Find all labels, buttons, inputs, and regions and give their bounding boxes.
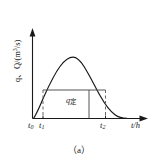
- tick-t1-subscript: 1: [41, 124, 44, 130]
- tick-t0-subscript: 0: [30, 124, 33, 130]
- area-annotation-subscript: 定: [70, 98, 77, 105]
- y-axis-units-tail: /s): [12, 40, 22, 49]
- figure-container: q、Q/(m3/s) t/h t0 t1 t2 q定 （a）: [0, 0, 158, 165]
- y-axis-symbol-Q: Q: [12, 63, 22, 69]
- x-tick-label-t1: t1: [39, 121, 44, 130]
- tick-t2-subscript: 2: [102, 124, 105, 130]
- hydrograph-curve: [34, 57, 128, 118]
- y-axis-units: /(m: [12, 51, 22, 63]
- figure-caption: （a）: [0, 146, 158, 155]
- x-tick-label-t2: t2: [100, 121, 105, 130]
- y-axis-symbol-q: q: [12, 78, 22, 82]
- y-axis-separator: 、: [12, 69, 22, 78]
- y-axis-units-exponent: 3: [12, 48, 18, 51]
- y-axis-label: q、Q/(m3/s): [10, 28, 24, 94]
- x-tick-label-t0: t0: [28, 121, 33, 130]
- area-annotation-label: q定: [66, 97, 77, 106]
- y-axis: [30, 28, 36, 119]
- x-axis-label: t/h: [131, 121, 140, 130]
- y-axis-label-text: q、Q/(m3/s): [12, 40, 21, 83]
